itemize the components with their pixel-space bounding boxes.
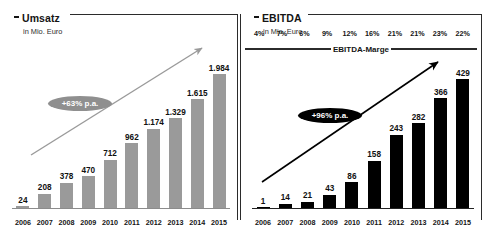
x-tick-label: 2010: [99, 218, 121, 227]
bar-slot: 712: [99, 56, 121, 208]
bar-value-label: 14: [281, 194, 290, 202]
bar-value-label: 282: [412, 114, 426, 122]
bar: [147, 129, 160, 208]
bar-slot: 208: [34, 56, 56, 208]
bar-slot: 24: [12, 56, 34, 208]
umsatz-frame-right-rail: [237, 14, 238, 220]
bar: [368, 161, 381, 208]
bar: [213, 74, 226, 208]
margin-value: 22%: [451, 29, 474, 38]
bar: [434, 98, 447, 208]
x-tick-label: 2013: [165, 218, 187, 227]
bar-value-label: 366: [434, 89, 448, 97]
x-tick-label: 2012: [143, 218, 165, 227]
x-tick-label: 2007: [34, 218, 56, 227]
umsatz-x-axis-line: [12, 208, 230, 209]
bar-slot: 158: [363, 60, 385, 208]
bar-value-label: 21: [303, 192, 312, 200]
ebitda-frame-left-rail: [240, 14, 241, 220]
marge-rule-right: [391, 48, 477, 49]
bar-slot: 1.329: [165, 56, 187, 208]
bar-slot: 429: [452, 60, 474, 208]
x-tick-label: 2007: [274, 218, 296, 227]
bar: [82, 176, 95, 208]
bar-value-label: 378: [60, 173, 74, 181]
bar-slot: 1: [252, 60, 274, 208]
bar-slot: 1.984: [208, 56, 230, 208]
bar-value-label: 1.329: [165, 109, 186, 117]
umsatz-growth-badge: +63% p.a.: [48, 96, 112, 111]
bar: [279, 204, 292, 208]
bar-slot: 962: [121, 56, 143, 208]
x-tick-label: 2014: [186, 218, 208, 227]
title-dash-icon: [254, 16, 259, 18]
bar-value-label: 243: [389, 125, 403, 133]
bar: [412, 123, 425, 208]
bar-value-label: 86: [347, 173, 356, 181]
umsatz-subtitle: in Mio. Euro: [23, 27, 62, 36]
x-tick-label: 2014: [430, 218, 452, 227]
bar: [390, 135, 403, 208]
bar-value-label: 962: [125, 134, 139, 142]
bar-value-label: 1.615: [187, 90, 208, 98]
bar: [169, 118, 182, 208]
umsatz-bars: 24 208 378 470 712: [12, 56, 230, 208]
bar-slot: 43: [319, 60, 341, 208]
page-title-umsatz: Umsatz: [22, 12, 60, 24]
bar: [191, 99, 204, 208]
bar-value-label: 429: [456, 70, 470, 78]
x-tick-label: 2009: [319, 218, 341, 227]
ebitda-title-rule: [308, 14, 482, 15]
x-tick-label: 2006: [252, 218, 274, 227]
umsatz-title-rule: [70, 14, 238, 15]
ebitda-growth-badge: +96% p.a.: [298, 108, 362, 123]
bar-value-label: 208: [38, 184, 52, 192]
marge-rule-left: [245, 48, 331, 49]
bar: [38, 194, 51, 208]
ebitda-x-axis-line: [252, 208, 474, 209]
bar-slot: 21: [296, 60, 318, 208]
margin-value: 6%: [293, 29, 316, 38]
chart-page: Umsatz in Mio. Euro 24 208 378: [0, 0, 482, 237]
bar-value-label: 24: [18, 197, 27, 205]
bar: [456, 79, 469, 208]
ebitda-margin-values: 4% 7% 6% 9% 12% 16% 21% 21% 23% 22%: [246, 29, 476, 38]
umsatz-x-axis-labels: 2006 2007 2008 2009 2010 2011 2012 2013 …: [12, 218, 230, 227]
bar-slot: 282: [407, 60, 429, 208]
bar: [60, 183, 73, 209]
x-tick-label: 2008: [296, 218, 318, 227]
bar-value-label: 1: [261, 198, 266, 206]
x-tick-label: 2011: [121, 218, 143, 227]
page-title-ebitda: EBITDA: [262, 12, 302, 24]
margin-value: 16%: [361, 29, 384, 38]
umsatz-header: Umsatz in Mio. Euro: [14, 8, 62, 36]
bar-value-label: 712: [103, 150, 117, 158]
bar: [125, 143, 138, 208]
bar-slot: 86: [341, 60, 363, 208]
x-tick-label: 2015: [452, 218, 474, 227]
x-tick-label: 2006: [12, 218, 34, 227]
ebitda-marge-label: EBITDA-Marge: [331, 45, 391, 54]
bar-value-label: 470: [81, 167, 95, 175]
x-tick-label: 2009: [77, 218, 99, 227]
bar: [301, 202, 314, 208]
ebitda-bars: 1 14 21 43 86: [252, 60, 474, 208]
bar-slot: 1.174: [143, 56, 165, 208]
bar: [257, 207, 270, 208]
x-tick-label: 2013: [407, 218, 429, 227]
bar-value-label: 1.174: [143, 119, 164, 127]
panel-ebitda: EBITDA in Mio. Euro 4% 7% 6% 9% 12% 16% …: [240, 0, 482, 237]
bar-slot: 14: [274, 60, 296, 208]
ebitda-plot: 1 14 21 43 86: [252, 60, 474, 209]
bar-value-label: 158: [367, 151, 381, 159]
margin-value: 4%: [248, 29, 271, 38]
x-tick-label: 2012: [385, 218, 407, 227]
title-dash-icon: [14, 16, 19, 18]
ebitda-marge-band: EBITDA-Marge: [245, 43, 477, 55]
bar-slot: 1.615: [186, 56, 208, 208]
bar-value-label: 43: [325, 185, 334, 193]
margin-value: 21%: [406, 29, 429, 38]
bar-value-label: 1.984: [209, 65, 230, 73]
x-tick-label: 2008: [56, 218, 78, 227]
margin-value: 7%: [271, 29, 294, 38]
